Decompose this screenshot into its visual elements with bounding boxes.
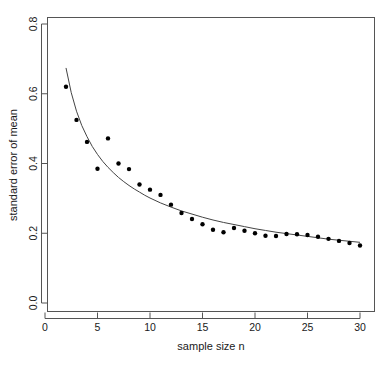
y-tick-label: 0.8 xyxy=(27,17,39,32)
data-point xyxy=(74,118,78,122)
data-point xyxy=(211,228,215,232)
y-tick-group: 0.00.20.40.60.8 xyxy=(27,17,48,311)
y-axis-title: standard error of mean xyxy=(7,109,19,221)
data-point xyxy=(64,85,68,89)
data-point xyxy=(253,231,257,235)
data-point xyxy=(347,241,351,245)
x-tick-label: 0 xyxy=(42,321,48,333)
plot-panel-border xyxy=(48,18,375,312)
x-tick-label: 20 xyxy=(249,321,261,333)
y-tick-label: 0.6 xyxy=(27,86,39,101)
data-point xyxy=(127,167,131,171)
data-point xyxy=(284,232,288,236)
x-axis-title: sample size n xyxy=(177,340,244,352)
data-point xyxy=(158,193,162,197)
data-point xyxy=(106,136,110,140)
x-tick-group: 051015202530 xyxy=(42,313,366,334)
x-tick-label: 30 xyxy=(354,321,366,333)
chart-figure: 0.00.20.40.60.8 051015202530 sample size… xyxy=(0,0,392,366)
data-point xyxy=(148,187,152,191)
data-point xyxy=(190,217,194,221)
x-tick-label: 5 xyxy=(95,321,101,333)
scatter-plot-svg: 0.00.20.40.60.8 051015202530 sample size… xyxy=(0,0,392,366)
data-point xyxy=(305,233,309,237)
x-tick-label: 10 xyxy=(144,321,156,333)
data-point xyxy=(274,234,278,238)
y-axis: 0.00.20.40.60.8 xyxy=(27,17,48,311)
data-point xyxy=(85,140,89,144)
data-point xyxy=(358,243,362,247)
data-point xyxy=(337,239,341,243)
data-point xyxy=(232,226,236,230)
data-point xyxy=(326,237,330,241)
data-point xyxy=(221,230,225,234)
theoretical-curve xyxy=(66,68,360,242)
x-axis: 051015202530 xyxy=(42,313,366,334)
data-point xyxy=(295,232,299,236)
data-point xyxy=(116,161,120,165)
y-tick-label: 0.0 xyxy=(27,296,39,311)
data-point-group xyxy=(64,85,362,248)
data-point xyxy=(242,229,246,233)
data-point xyxy=(200,222,204,226)
data-point xyxy=(169,202,173,206)
y-tick-label: 0.4 xyxy=(27,156,39,171)
data-point xyxy=(179,211,183,215)
data-point xyxy=(316,235,320,239)
data-point xyxy=(137,182,141,186)
x-tick-label: 25 xyxy=(302,321,314,333)
data-point xyxy=(95,167,99,171)
y-tick-label: 0.2 xyxy=(27,226,39,241)
data-point xyxy=(263,233,267,237)
x-tick-label: 15 xyxy=(197,321,209,333)
